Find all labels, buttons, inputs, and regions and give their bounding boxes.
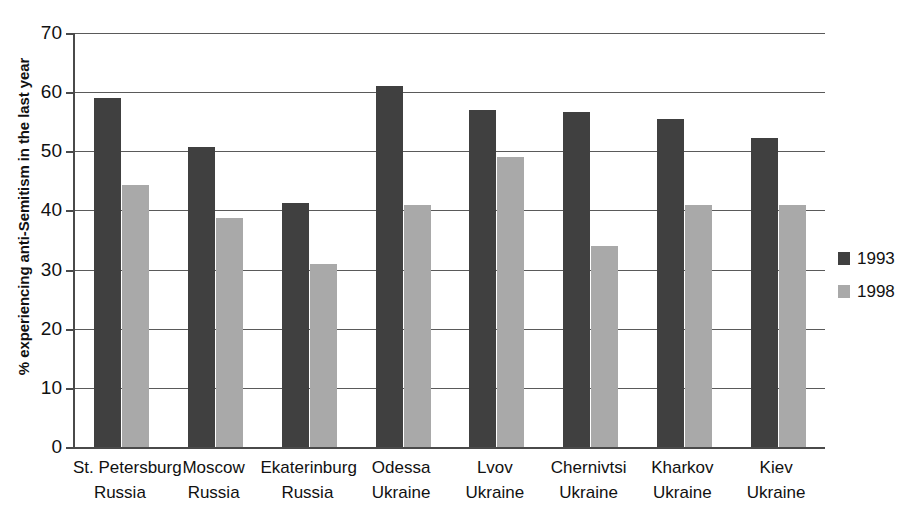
plot-area: 010203040506070 (73, 33, 825, 449)
y-tick-label: 30 (41, 259, 62, 281)
bar (94, 98, 121, 447)
y-tick-mark (66, 329, 75, 331)
bar-group (188, 33, 243, 447)
y-tick-label: 10 (41, 377, 62, 399)
bar (497, 157, 524, 447)
bar (122, 185, 149, 447)
bar-group (469, 33, 524, 447)
y-tick-mark (66, 447, 75, 449)
x-axis-label: MoscowRussia (167, 455, 261, 505)
bar-group (657, 33, 712, 447)
y-tick-label: 70 (41, 22, 62, 44)
bar-group (563, 33, 618, 447)
legend-swatch-icon (838, 252, 850, 265)
legend-swatch-icon (838, 285, 850, 298)
y-tick-mark (66, 210, 75, 212)
y-tick-mark (66, 388, 75, 390)
bars-layer (75, 33, 825, 447)
bar (404, 205, 431, 447)
y-axis-title: % experiencing anti-Semitism in the last… (15, 2, 32, 432)
x-axis-label: EkaterinburgRussia (261, 455, 355, 505)
x-axis-label: KharkovUkraine (636, 455, 730, 505)
y-tick-mark (66, 270, 75, 272)
bar-group (376, 33, 431, 447)
bar (591, 246, 618, 447)
bar (469, 110, 496, 447)
y-tick-label: 0 (51, 436, 62, 458)
x-axis-label: KievUkraine (729, 455, 823, 505)
x-axis-label: LvovUkraine (448, 455, 542, 505)
legend-label: 1993 (857, 249, 895, 269)
legend-item[interactable]: 1998 (838, 275, 895, 308)
y-tick-mark (66, 92, 75, 94)
y-tick-label: 50 (41, 140, 62, 162)
bar-chart: % experiencing anti-Semitism in the last… (0, 0, 902, 521)
legend-item[interactable]: 1993 (838, 242, 895, 275)
bar-group (751, 33, 806, 447)
bar-group (282, 33, 337, 447)
bar (563, 112, 590, 447)
bar (376, 86, 403, 447)
x-axis-label: OdessaUkraine (354, 455, 448, 505)
y-tick-mark (66, 33, 75, 35)
chart-legend: 19931998 (838, 242, 895, 308)
bar (657, 119, 684, 447)
bar-group (94, 33, 149, 447)
y-tick-label: 20 (41, 318, 62, 340)
x-axis-label: ChernivtsiUkraine (542, 455, 636, 505)
y-tick-label: 40 (41, 199, 62, 221)
y-tick-label: 60 (41, 81, 62, 103)
bar (310, 264, 337, 447)
bar (216, 218, 243, 447)
x-axis-labels: St. PetersburgRussiaMoscowRussiaEkaterin… (73, 455, 823, 515)
bar (779, 205, 806, 447)
bar (282, 203, 309, 447)
bar (188, 147, 215, 447)
legend-label: 1998 (857, 282, 895, 302)
bar (751, 138, 778, 447)
bar (685, 205, 712, 447)
y-tick-mark (66, 151, 75, 153)
x-axis-label: St. PetersburgRussia (73, 455, 167, 505)
